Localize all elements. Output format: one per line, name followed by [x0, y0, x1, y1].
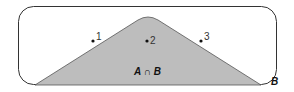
- point-label: 3: [204, 31, 210, 42]
- point-marker: [199, 39, 202, 42]
- point-marker: [145, 39, 148, 42]
- venn-diagram: 1 2 3 A ∩ B B: [0, 0, 294, 92]
- point-label: 1: [96, 31, 102, 42]
- diagram-canvas: 1 2 3 A ∩ B B: [0, 0, 294, 92]
- set-b-label: B: [271, 76, 278, 87]
- intersection-label: A ∩ B: [133, 66, 161, 77]
- point-marker: [91, 39, 94, 42]
- point-label: 2: [150, 35, 156, 46]
